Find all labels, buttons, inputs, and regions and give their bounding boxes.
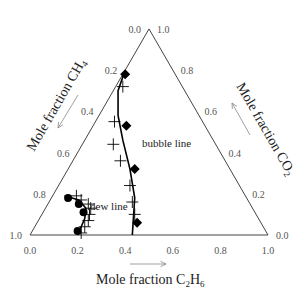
- bottom-tick: 0.8: [214, 245, 227, 256]
- left-axis-label: Mole fraction CH4: [24, 55, 91, 154]
- right-tick: 0.0: [276, 230, 289, 241]
- bottom-axis-label: Mole fraction C2H6: [96, 272, 205, 289]
- right-tick: 0.6: [205, 106, 218, 117]
- bottom-tick: 0.4: [119, 245, 132, 256]
- right-tick: 0.2: [252, 189, 265, 200]
- bottom-tick: 0.6: [167, 245, 180, 256]
- bottom-tick: 0.2: [71, 245, 84, 256]
- left-tick: 1.0: [10, 230, 23, 241]
- left-tick: 0.0: [129, 24, 142, 35]
- diamond-marker: [120, 69, 130, 79]
- ternary-diagram: 0.00.01.00.20.20.80.40.40.60.60.60.40.80…: [0, 0, 304, 299]
- circle-marker: [64, 194, 72, 202]
- triangle-frame: [30, 29, 268, 235]
- circle-marker: [74, 227, 82, 235]
- bubble-line-label: bubble line: [142, 137, 191, 149]
- right-tick: 0.4: [228, 148, 241, 159]
- right-tick: 0.8: [181, 65, 194, 76]
- diamond-marker: [121, 121, 131, 131]
- right-tick: 1.0: [157, 24, 170, 35]
- right-axis-label: Mole fraction CO2: [232, 80, 299, 179]
- left-tick: 0.4: [81, 106, 94, 117]
- left-tick: 0.2: [105, 65, 118, 76]
- circle-marker: [80, 208, 88, 216]
- bottom-tick: 1.0: [262, 245, 275, 256]
- left-tick: 0.8: [33, 189, 46, 200]
- left-tick: 0.6: [57, 148, 70, 159]
- dew-line-label: dew line: [90, 200, 128, 212]
- bottom-tick: 0.0: [24, 245, 37, 256]
